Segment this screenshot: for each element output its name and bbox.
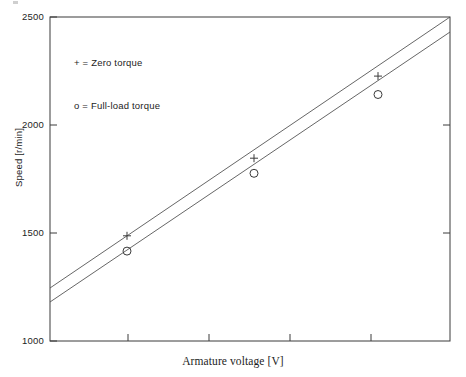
y-tick-label-1500: 1500 — [12, 227, 44, 238]
y-axis-label: Speed [r/min] — [13, 118, 24, 198]
marker-plus-group — [123, 72, 382, 240]
legend-entry-zero-torque: + = Zero torque — [74, 57, 142, 68]
x-axis-ticks — [128, 334, 371, 341]
chart-figure: 2500 2000 1500 1000 Speed [r/min] Armatu… — [0, 0, 466, 377]
series-line-full-load-torque — [50, 32, 450, 302]
marker-circle-group — [123, 91, 382, 256]
y-tick-label-1000: 1000 — [12, 335, 44, 346]
y-tick-label-2500: 2500 — [12, 11, 44, 22]
y-axis-ticks-right — [443, 125, 450, 233]
plot-canvas — [0, 0, 466, 377]
legend-entry-full-load-torque: o = Full-load torque — [74, 100, 160, 111]
x-axis-label: Armature voltage [V] — [0, 355, 466, 367]
y-axis-ticks — [50, 17, 57, 341]
